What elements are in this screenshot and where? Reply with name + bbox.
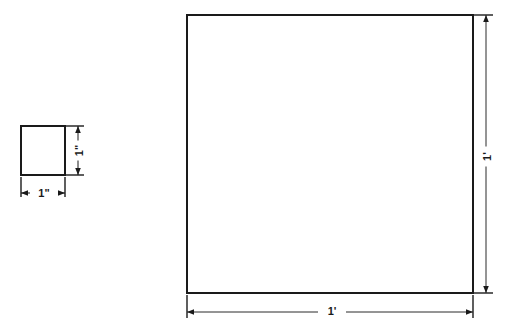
large-square-outline [187,15,473,293]
large-square-height-label: 1' [482,147,493,167]
small-square-outline [21,126,65,175]
diagram-canvas: 1" 1" 1' 1' [0,0,509,332]
large-square-width-label: 1' [318,306,346,317]
small-square-height-label: 1" [74,141,85,161]
small-square-width-label: 1" [30,188,58,199]
diagram-svg [0,0,509,332]
